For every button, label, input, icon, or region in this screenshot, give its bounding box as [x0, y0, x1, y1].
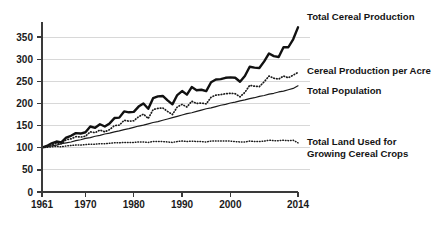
- y-tick-group: 050100150200250300350: [16, 32, 42, 198]
- series-label-total-population: Total Population: [307, 85, 382, 96]
- series-line-total-population: [42, 86, 298, 148]
- y-tick-label: 300: [16, 54, 33, 65]
- x-tick-label: 2000: [219, 199, 242, 210]
- axes-group: [42, 22, 298, 192]
- series-label-total-cereal-production: Total Cereal Production: [307, 11, 415, 22]
- series-line-total-land-used-for-growing-cereal-crops: [42, 140, 298, 148]
- series-label-cereal-production-per-acre: Cereal Production per Acre: [307, 65, 431, 76]
- x-tick-group: 196119701980199020002014: [31, 192, 310, 210]
- series-label-total-land-used-for-growing-cereal-crops-line1: Total Land Used for: [307, 136, 397, 147]
- y-tick-label: 0: [27, 187, 33, 198]
- x-tick-label: 1961: [31, 199, 54, 210]
- x-tick-label: 2014: [287, 199, 310, 210]
- line-chart: 050100150200250300350 196119701980199020…: [0, 0, 440, 229]
- y-tick-label: 100: [16, 142, 33, 153]
- series-line-cereal-production-per-acre: [42, 72, 298, 147]
- y-tick-label: 150: [16, 120, 33, 131]
- series-label-total-land-used-for-growing-cereal-crops-line2: Growing Cereal Crops: [307, 148, 408, 159]
- chart-figure: 050100150200250300350 196119701980199020…: [0, 0, 440, 229]
- gridline-group: [42, 37, 310, 170]
- y-tick-label: 250: [16, 76, 33, 87]
- series-label-group: Total Cereal ProductionCereal Production…: [307, 11, 431, 159]
- series-group: [42, 27, 298, 147]
- y-tick-label: 50: [22, 164, 34, 175]
- y-tick-label: 200: [16, 98, 33, 109]
- y-tick-label: 350: [16, 32, 33, 43]
- x-tick-label: 1990: [171, 199, 194, 210]
- x-tick-label: 1980: [123, 199, 146, 210]
- x-tick-label: 1970: [74, 199, 97, 210]
- series-line-total-cereal-production: [42, 27, 298, 147]
